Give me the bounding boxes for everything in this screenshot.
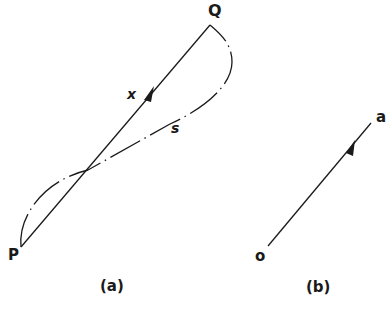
arrowhead-icon (346, 140, 355, 156)
vector-oa (268, 123, 371, 246)
label-point-p: P (8, 246, 19, 264)
displacement-vector-x (21, 25, 210, 247)
figure-a: P Q x s (a) (8, 1, 232, 295)
diagram-canvas: P Q x s (a) o a (b) (0, 0, 387, 310)
label-vector-x: x (126, 86, 137, 102)
label-point-o: o (255, 247, 265, 265)
figure-b: o a (b) (255, 108, 386, 296)
label-point-q: Q (208, 1, 222, 20)
caption-a: (a) (100, 277, 124, 295)
caption-b: (b) (306, 278, 330, 296)
path-curve-s (21, 25, 232, 247)
label-path-s: s (171, 120, 179, 136)
label-point-a: a (376, 108, 386, 126)
arrowhead-icon (144, 86, 154, 102)
